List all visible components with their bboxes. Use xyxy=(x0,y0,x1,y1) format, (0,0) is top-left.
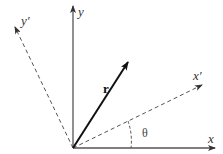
theta-label: θ xyxy=(142,126,148,140)
vector-r-label: r xyxy=(103,81,109,96)
y-prime-axis-label: y′ xyxy=(19,13,30,28)
y-prime-axis xyxy=(15,27,73,148)
x-prime-axis-label: x′ xyxy=(192,68,202,83)
angle-arc-theta xyxy=(128,121,131,148)
rotated-axes-diagram: y y′ x′ x r θ xyxy=(0,0,223,154)
y-axis-label: y xyxy=(76,4,84,19)
x-axis-label: x xyxy=(207,131,214,146)
